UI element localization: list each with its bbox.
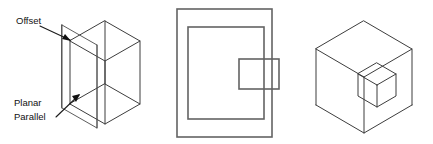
- label-planar: Planar: [14, 97, 41, 108]
- offset-overlap-rectangle: [239, 59, 279, 89]
- inner-rectangle: [188, 27, 264, 119]
- isometric-offset-diagram: Offset Planar Parallel: [0, 0, 150, 144]
- panel-isometric-pocket-cube: [295, 0, 433, 144]
- label-parallel: Parallel: [14, 111, 46, 122]
- outer-rectangle: [177, 9, 272, 137]
- panel-orthographic-front-view: [150, 0, 295, 144]
- offset-leader-arrowhead: [62, 34, 71, 41]
- isometric-pocket-diagram: [295, 0, 433, 144]
- pocket-cube-top-face: [316, 21, 412, 77]
- panel-isometric-offset-plane: Offset Planar Parallel: [0, 0, 150, 144]
- technical-drawing-figure: Offset Planar Parallel: [0, 0, 433, 144]
- pocket-inner-edge-left: [358, 74, 377, 85]
- label-offset: Offset: [16, 15, 42, 26]
- orthographic-front-view-diagram: [150, 0, 295, 144]
- offset-plane-face: [62, 25, 97, 128]
- pocket-inner-edge-right: [377, 74, 396, 85]
